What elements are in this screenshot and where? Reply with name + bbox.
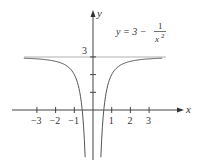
x-tick-label: −2 (50, 115, 61, 126)
x-axis-label: x (185, 103, 191, 115)
equation-numerator: 1 (158, 21, 163, 31)
x-tick-label: −1 (68, 115, 79, 126)
function-graph: x y −3−2−1123 3 y = 3 − 1 x 2 (0, 0, 198, 164)
curve-right-branch (101, 58, 162, 157)
x-tick-label: 3 (146, 115, 151, 126)
equation-rest: = 3 − (120, 26, 146, 37)
equation-lhs: y = 3 − (115, 26, 146, 37)
equation-label: y = 3 − 1 x 2 (115, 21, 166, 44)
curve-left-branch (24, 58, 85, 157)
x-tick-label: 2 (127, 115, 132, 126)
y-axis-label: y (96, 7, 102, 19)
equation-exponent: 2 (161, 32, 165, 40)
equation-denominator: x (154, 34, 159, 44)
x-axis-arrow-icon (177, 108, 184, 113)
x-tick-label: 1 (109, 115, 114, 126)
y-axis-arrow-icon (91, 10, 96, 17)
asymptote-value-label: 3 (82, 45, 87, 56)
x-tick-label: −3 (31, 115, 42, 126)
